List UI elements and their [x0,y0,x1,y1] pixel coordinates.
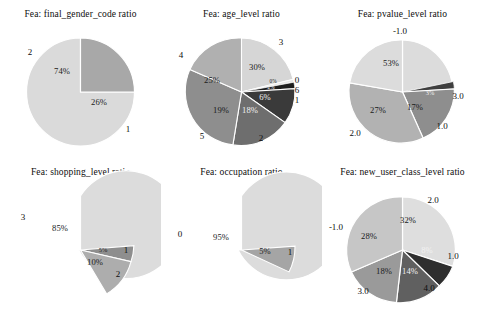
pie-svg [322,0,483,158]
panel-occupation: Fea: occupation ratio 95% 0 5% 1 [161,158,322,316]
wedge-1 [81,38,135,92]
pie-chart-shopping-level: 85% 3 5% 1 10% 2 [0,158,161,316]
pie-svg [0,0,161,158]
panel-shopping-level: Fea: shopping_level ratio 85% 3 5% 1 10%… [0,158,161,316]
panel-age-level: Fea: age_level ratio 30% 3 0% 0 2% 6 6% … [161,0,322,158]
pie-chart-age-level: 30% 3 0% 0 2% 6 6% 1 18% 2 19% 5 25% 4 [161,0,322,158]
pie-svg [161,0,322,158]
pie-svg [161,158,322,316]
wedge-neg1-cap [350,40,403,92]
pie-chart-new-user-class-level: 32% 2.0 8% 1.0 14% 4.0 18% 3.0 28% -1.0 [322,158,483,316]
pie-svg [322,158,483,316]
panel-new-user-class-level: Fea: new_user_class_level ratio 32% 2.0 … [322,158,483,316]
panel-pvalue-level: Fea: pvalue_level ratio 53% -1.0 3% 3.0 … [322,0,483,158]
panel-final-gender-code: Fea: final_gender_code ratio 74% 2 26% 1 [0,0,161,158]
pie-chart-final-gender-code: 74% 2 26% 1 [0,0,161,158]
pie-chart-occupation: 95% 0 5% 1 [161,158,322,316]
pie-svg [0,158,161,316]
pie-chart-figure: Fea: final_gender_code ratio 74% 2 26% 1… [0,0,484,317]
pie-chart-pvalue-level: 53% -1.0 3% 3.0 17% 1.0 27% 2.0 [322,0,483,158]
